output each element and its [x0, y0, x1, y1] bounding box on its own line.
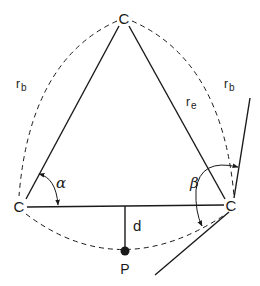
- diagram-canvas: C C C P d rb rb re α β: [0, 0, 260, 286]
- radius-rb-left-label: rb: [16, 77, 27, 93]
- vertex-left-label: C: [14, 198, 25, 215]
- radius-re-label: re: [186, 95, 197, 111]
- edge-top-right: [129, 26, 225, 199]
- tangent-line-upper: [234, 98, 250, 198]
- angle-beta-label: β: [189, 174, 199, 192]
- vertex-right-label: C: [226, 197, 237, 214]
- arc-rb-left: [19, 21, 117, 196]
- arc-bottom: [26, 214, 226, 250]
- vertex-top-label: C: [119, 10, 130, 27]
- distance-d-label: d: [133, 217, 141, 234]
- radius-rb-right-label: rb: [224, 77, 235, 93]
- arc-rb-right: [132, 21, 234, 196]
- angle-alpha-label: α: [56, 174, 66, 192]
- point-p-dot: [121, 247, 130, 256]
- point-p-label: P: [120, 261, 129, 277]
